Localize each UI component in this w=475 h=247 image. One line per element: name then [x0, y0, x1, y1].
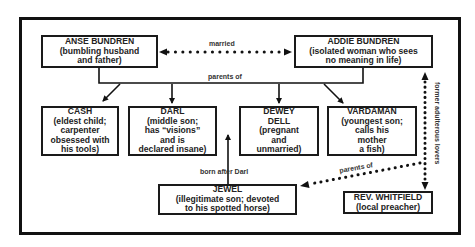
born-after-darl-label: born after Darl [200, 168, 248, 175]
arrow-right-head [284, 49, 292, 56]
vardaman-desc: (youngest son; calls his mother a fish) [341, 117, 403, 155]
vardaman-box: VARDAMAN (youngest son; calls his mother… [327, 106, 417, 156]
arrow-down-head [422, 182, 429, 190]
arrow-to-vardaman [324, 84, 343, 103]
lovers-connector [422, 72, 429, 190]
former-lovers-label: former adulterous lovers [434, 82, 441, 164]
addie-bundren-box: ADDIE BUNDREN (isolated woman who sees n… [294, 35, 433, 68]
anse-desc: (bumbling husband and father) [60, 47, 140, 66]
cash-desc: (eldest child; carpenter obsessed with h… [50, 117, 109, 155]
arrow-to-jewel-head [300, 181, 310, 188]
rev-whitfield-box: REV. WHITFIELD (local preacher) [343, 191, 433, 214]
addie-desc: (isolated woman who sees no meaning in l… [309, 47, 417, 66]
married-connector [159, 49, 292, 56]
darl-box: DARL (middle son; has “visions” and is d… [128, 106, 217, 156]
arrow-left-head [159, 49, 167, 56]
dewey-dell-desc: (pregnant and unmarried) [257, 126, 302, 154]
arrow-up-head [422, 72, 429, 80]
anse-bundren-box: ANSE BUNDREN (bumbling husband and fathe… [41, 35, 158, 68]
jewel-box: JEWEL (illegitimate son; devoted to his … [158, 184, 297, 215]
cash-box: CASH (eldest child; carpenter obsessed w… [41, 106, 119, 156]
darl-desc: (middle son; has “visions” and is declar… [139, 117, 207, 155]
arrow-to-cash [103, 84, 120, 101]
married-label: married [209, 40, 235, 47]
dewey-dell-name: DEWEY DELL [263, 107, 295, 126]
whitfield-desc: (local preacher) [356, 203, 420, 212]
parents-of-label: parents of [208, 73, 242, 80]
dewey-dell-box: DEWEY DELL (pregnant and unmarried) [239, 106, 319, 156]
jewel-desc: (illegitimate son; devoted to his spotte… [176, 195, 280, 214]
